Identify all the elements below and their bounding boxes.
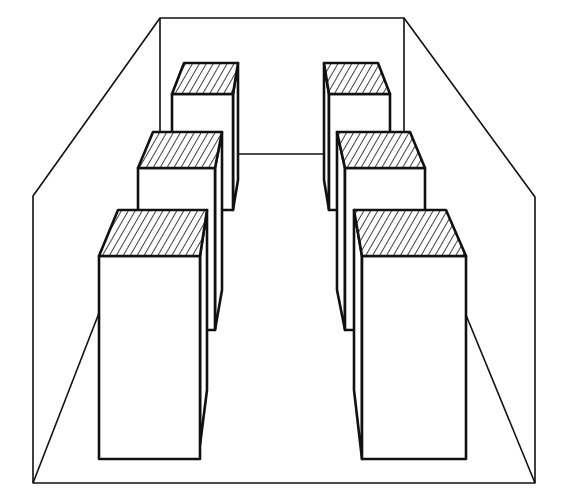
hatched-top (324, 63, 390, 94)
hatched-top (172, 63, 238, 94)
room-diagram (0, 0, 562, 499)
right-floor-edge (466, 315, 535, 483)
hatched-top (354, 210, 466, 256)
front-face (99, 256, 200, 459)
box-right-front (354, 210, 466, 459)
hatched-top (337, 132, 425, 168)
hatched-top (99, 210, 207, 256)
box-left-front (99, 210, 207, 459)
front-face (362, 256, 466, 459)
hatched-top (138, 132, 222, 168)
left-floor-edge (33, 313, 99, 483)
